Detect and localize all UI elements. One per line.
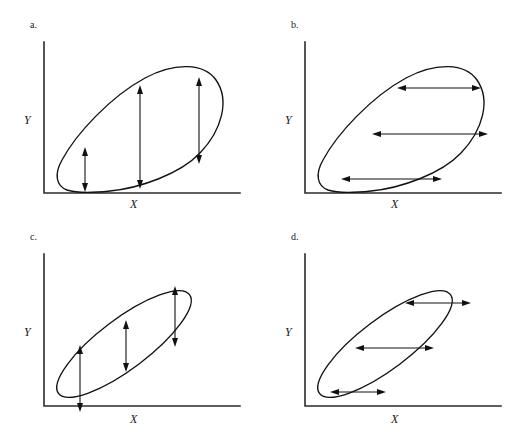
panel-c-y-axis-label: Y (24, 325, 32, 339)
panel-d-letter: d. (291, 231, 299, 242)
panel-a-svg: a. Y X (0, 0, 261, 219)
panel-c: c. Y X (0, 220, 261, 439)
panel-d-arrow-1 (405, 300, 471, 306)
panel-a: a. Y X (0, 0, 261, 219)
panel-d-svg: d. Y X (261, 220, 522, 439)
panel-b: b. Y X (261, 0, 522, 219)
panel-b-x-axis-label: X (390, 197, 399, 211)
panel-c-x-axis-label: X (129, 412, 138, 426)
panel-b-arrow-2 (372, 131, 488, 137)
panel-c-axes (44, 254, 240, 406)
panel-a-letter: a. (30, 19, 37, 30)
panel-a-y-axis-label: Y (24, 113, 32, 127)
panel-c-svg: c. Y X (0, 220, 261, 439)
panel-b-arrow-3 (341, 176, 442, 182)
figure-container: a. Y X (0, 0, 522, 439)
panel-d-axes (305, 254, 501, 406)
panel-b-letter: b. (291, 19, 299, 30)
panel-d-envelope (304, 275, 465, 414)
panel-d: d. Y X (261, 220, 522, 439)
panel-b-envelope (318, 67, 484, 193)
panel-a-arrow-2 (137, 85, 143, 189)
panel-b-svg: b. Y X (261, 0, 522, 219)
panel-c-arrow-2 (123, 320, 129, 372)
panel-b-arrow-1 (397, 85, 481, 91)
panel-a-x-axis-label: X (129, 197, 138, 211)
panel-b-axes (305, 42, 501, 193)
panel-c-envelope (43, 275, 204, 414)
panel-c-arrow-3 (172, 286, 178, 347)
panel-a-arrow-1 (82, 147, 88, 192)
panel-c-letter: c. (30, 231, 37, 242)
panel-c-arrow-1 (77, 345, 83, 412)
panel-d-x-axis-label: X (390, 412, 399, 426)
panel-d-y-axis-label: Y (285, 325, 293, 339)
panel-b-y-axis-label: Y (285, 113, 293, 127)
panel-a-axes (44, 42, 240, 193)
